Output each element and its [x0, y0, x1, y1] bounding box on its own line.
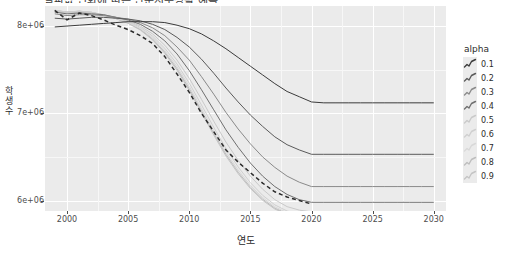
legend-item-label: 0.9: [481, 172, 494, 181]
legend-key-icon: [463, 127, 477, 141]
y-tick-label: 6e+06: [17, 196, 44, 205]
legend-item-0-8[interactable]: 0.8: [463, 155, 505, 169]
x-tick-label: 2015: [230, 215, 270, 224]
legend-item-0-7[interactable]: 0.7: [463, 141, 505, 155]
legend-item-0-3[interactable]: 0.3: [463, 85, 505, 99]
series-line: [55, 17, 434, 154]
legend-item-label: 0.6: [481, 130, 494, 139]
x-tick-mark: [312, 211, 313, 214]
y-tick-mark: [41, 201, 44, 202]
x-tick-label: 2000: [47, 215, 87, 224]
series-line: [55, 22, 434, 103]
legend-item-0-5[interactable]: 0.5: [463, 113, 505, 127]
series-line: [55, 10, 434, 211]
legend-item-0-9[interactable]: 0.9: [463, 169, 505, 183]
plot-panel: [45, 6, 446, 211]
chart-root: 알파값 변화에 따른 단순지수평활 예측 학생수 연도 8e+067e+066e…: [0, 0, 505, 258]
x-tick-mark: [250, 211, 251, 214]
legend-item-label: 0.4: [481, 102, 494, 111]
x-tick-mark: [128, 211, 129, 214]
x-tick-label: 2005: [108, 215, 148, 224]
y-tick-mark: [41, 26, 44, 27]
legend-item-0-1[interactable]: 0.1: [463, 57, 505, 71]
x-tick-label: 2030: [414, 215, 454, 224]
legend-key-icon: [463, 71, 477, 85]
series-line: [55, 14, 434, 187]
legend-item-0-6[interactable]: 0.6: [463, 127, 505, 141]
x-tick-label: 2025: [353, 215, 393, 224]
y-tick-label: 7e+06: [17, 108, 44, 117]
legend-item-label: 0.1: [481, 60, 494, 69]
chart-title: 알파값 변화에 따른 단순지수평활 예측: [44, 0, 344, 3]
series-lines: [45, 6, 446, 211]
y-axis-title: 학생수: [2, 86, 16, 116]
y-tick-label: 8e+06: [17, 21, 44, 30]
y-tick-mark: [41, 113, 44, 114]
legend-item-label: 0.8: [481, 158, 494, 167]
legend-item-0-4[interactable]: 0.4: [463, 99, 505, 113]
series-line: [55, 12, 434, 202]
legend-key-icon: [463, 57, 477, 71]
x-axis-title: 연도: [45, 232, 446, 247]
legend-key-icon: [463, 85, 477, 99]
x-tick-mark: [434, 211, 435, 214]
legend-item-label: 0.3: [481, 88, 494, 97]
x-tick-mark: [67, 211, 68, 214]
legend-key-icon: [463, 155, 477, 169]
x-tick-mark: [373, 211, 374, 214]
legend-key-icon: [463, 169, 477, 183]
legend-key-icon: [463, 113, 477, 127]
legend-items: 0.10.20.30.40.50.60.70.80.9: [463, 57, 505, 183]
legend-title: alpha: [463, 44, 505, 54]
legend-key-icon: [463, 99, 477, 113]
legend: alpha 0.10.20.30.40.50.60.70.80.9: [463, 44, 505, 183]
legend-item-0-2[interactable]: 0.2: [463, 71, 505, 85]
legend-item-label: 0.2: [481, 74, 494, 83]
legend-item-label: 0.7: [481, 144, 494, 153]
legend-key-icon: [463, 141, 477, 155]
series-line: [55, 10, 312, 204]
x-tick-label: 2010: [169, 215, 209, 224]
x-tick-mark: [189, 211, 190, 214]
legend-item-label: 0.5: [481, 116, 494, 125]
x-tick-label: 2020: [292, 215, 332, 224]
